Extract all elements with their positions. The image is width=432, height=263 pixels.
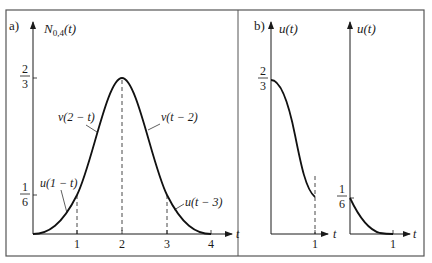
x-tick-label: 1 <box>312 237 318 251</box>
y-tick-den: 6 <box>22 195 28 209</box>
y-axis-label: N0,4(t) <box>43 21 76 38</box>
x-axis-label: t <box>413 227 417 241</box>
y-tick-num: 2 <box>22 62 28 76</box>
y-tick-den: 6 <box>339 197 345 211</box>
x-tick-label: 3 <box>164 237 170 251</box>
x-tick-label: 1 <box>74 237 80 251</box>
x-tick-label: 2 <box>119 237 125 251</box>
x-tick-label: 1 <box>390 237 396 251</box>
panel-b-tag: b) <box>254 18 265 33</box>
y-tick-den: 3 <box>260 79 266 93</box>
curve-label-v-2-t: v(2 − t) <box>58 110 95 124</box>
y-axis-label: u(t) <box>279 21 298 36</box>
panel-a: a) N0,4(t) t 2 3 1 6 1 2 3 4 <box>9 18 240 251</box>
curve-label-u-1-t: u(1 − t) <box>40 176 77 190</box>
figure-canvas: a) N0,4(t) t 2 3 1 6 1 2 3 4 <box>0 0 432 263</box>
panel-b: b) u(t) t 2 3 1 u(t) t 1 6 1 <box>254 18 417 251</box>
curve-label-v-t-2: v(t − 2) <box>161 110 198 124</box>
y-tick-den: 3 <box>22 77 28 91</box>
y-tick-num: 1 <box>22 180 28 194</box>
y-axis-label: u(t) <box>357 21 376 36</box>
panel-a-tag: a) <box>9 18 19 33</box>
u-curve-left <box>271 80 315 197</box>
x-axis-label: t <box>333 227 337 241</box>
y-tick-num: 1 <box>339 182 345 196</box>
x-tick-label: 4 <box>208 237 214 251</box>
y-tick-num: 2 <box>260 64 266 78</box>
x-axis-label: t <box>236 227 240 241</box>
curve-label-u-t-3: u(t − 3) <box>185 195 222 209</box>
u-curve-right <box>350 198 393 234</box>
